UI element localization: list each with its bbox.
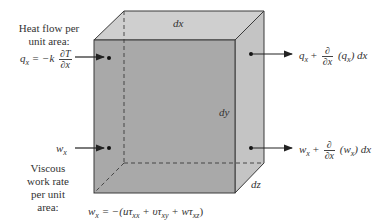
work-caption-line2: work rate [16, 175, 80, 188]
work-caption: Viscous work rate per unit area: [16, 162, 80, 214]
heat-caption: Heat flow per unit area: [14, 22, 84, 48]
fourier-coefficient: = −k [32, 52, 54, 64]
partial-derivative: ∂∂x [324, 140, 335, 161]
dy-label: dy [219, 106, 229, 119]
viscous-work-equation: wx = −(uτxx + υτxy + wτxz) [88, 205, 203, 222]
term-1: = −(uτ [102, 205, 133, 217]
work-caption-line1: Viscous [16, 162, 80, 175]
paren-close: ) dx [354, 143, 371, 155]
w-subscript: x [306, 149, 310, 158]
fraction-denominator: ∂x [322, 57, 333, 67]
work-caption-line3: per unit [16, 188, 80, 201]
w-subscript: x [95, 211, 99, 220]
term-2: + υτ [139, 205, 161, 217]
fraction-denominator: ∂x [324, 151, 335, 161]
term-2-subscript: xy [161, 211, 168, 220]
front-face [94, 40, 235, 193]
work-out-expression: wx + ∂∂x (wx) dx [299, 140, 371, 161]
term-3: + wτ [169, 205, 193, 217]
partial-derivative: ∂∂x [322, 46, 333, 67]
plus-sign: + [313, 143, 319, 155]
temperature-gradient: ∂T∂x [59, 49, 72, 70]
work-in-label: wx [56, 142, 67, 159]
dz-label: dz [251, 178, 261, 191]
q-subscript: x [26, 58, 30, 67]
close-paren: ) [199, 205, 203, 217]
heat-out-expression: qx + ∂∂x (qx) dx [299, 46, 367, 67]
work-caption-line4: area: [16, 201, 80, 214]
heat-caption-line2: unit area: [14, 35, 84, 48]
heat-flux-equation: qx = −k ∂T∂x [20, 49, 74, 70]
fraction-denominator: ∂x [59, 60, 72, 70]
dx-label: dx [173, 17, 183, 30]
paren-close: ) dx [351, 49, 368, 61]
paren-open: (q [338, 49, 347, 61]
w-subscript: x [63, 148, 67, 157]
paren-open: (w [340, 143, 351, 155]
plus-sign: + [311, 49, 317, 61]
q-subscript: x [305, 55, 309, 64]
heat-caption-line1: Heat flow per [14, 22, 84, 35]
side-face [235, 11, 264, 193]
